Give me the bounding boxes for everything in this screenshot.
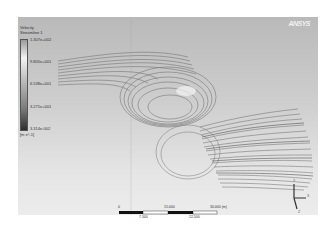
svg-text:Y: Y bbox=[293, 179, 296, 183]
scale-label-30: 30.000 (m) bbox=[210, 205, 227, 209]
axis-triad-icon: Y X Z bbox=[272, 176, 312, 216]
svg-text:Z: Z bbox=[298, 210, 301, 214]
scale-label-15: 15.000 bbox=[164, 205, 175, 209]
scale-label-22-5: 22.500 bbox=[189, 215, 200, 219]
scale-label-0: 0 bbox=[118, 205, 120, 209]
scale-label-7-5: 7.500 bbox=[139, 215, 148, 219]
svg-text:X: X bbox=[307, 194, 310, 198]
